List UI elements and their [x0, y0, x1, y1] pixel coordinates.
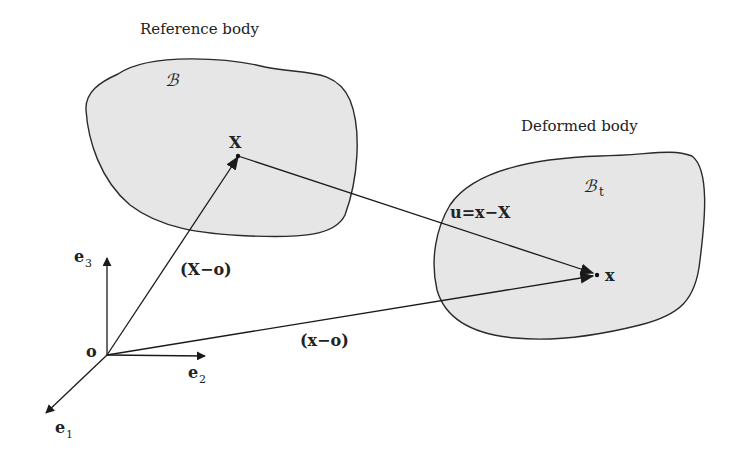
current-position-label: (x−o) [300, 331, 349, 350]
e2-axis-arrow [107, 355, 205, 356]
reference-point-label: X [229, 133, 242, 152]
reference-body-symbol: ℬ [165, 71, 180, 90]
e3-subscript: 3 [85, 257, 92, 270]
deformed-body-shape [434, 152, 705, 339]
deformed-body-subscript: t [599, 185, 604, 199]
reference-position-label: (X−o) [180, 260, 232, 279]
reference-point-dot [236, 154, 240, 158]
reference-body-caption: Reference body [140, 20, 260, 38]
deformed-body-caption: Deformed body [521, 117, 638, 135]
e1-axis-arrow [46, 355, 107, 413]
e1-label: e [55, 418, 65, 437]
continuum-kinematics-diagram: Reference body Deformed body ℬ ℬ t X x u… [0, 0, 736, 461]
e1-subscript: 1 [66, 428, 73, 441]
displacement-label: u=x−X [450, 203, 511, 222]
e3-label: e [74, 247, 84, 266]
reference-body-shape [86, 59, 357, 237]
origin-label: o [86, 342, 97, 361]
deformed-body-symbol: ℬ [583, 177, 598, 196]
current-point-dot [595, 273, 599, 277]
current-point-label: x [605, 266, 615, 285]
e2-label: e [188, 363, 198, 382]
e2-subscript: 2 [199, 373, 206, 386]
